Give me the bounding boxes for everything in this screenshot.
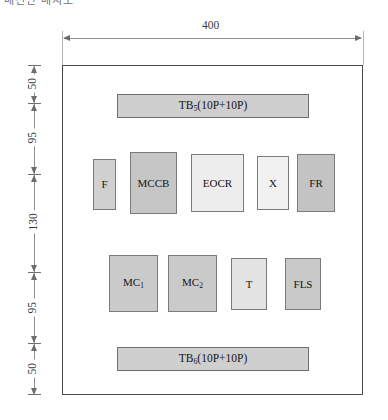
dim-arrow-seg4-top xyxy=(31,344,37,351)
dim-extension-right xyxy=(363,31,364,65)
dim-arrow-seg3-top xyxy=(31,273,37,280)
dim-width-arrow-right xyxy=(355,35,362,41)
dim-vertical-label-95-lower: 95 xyxy=(27,299,39,317)
dim-arrow-seg1-top xyxy=(31,104,37,111)
component-fls-label: FLS xyxy=(294,279,313,290)
component-mccb[interactable]: MCCB xyxy=(130,152,177,214)
component-fls[interactable]: FLS xyxy=(285,258,321,310)
dim-vertical-label-130: 130 xyxy=(28,210,40,233)
dim-vertical-label-50-top: 50 xyxy=(27,75,39,93)
dim-width-label: 400 xyxy=(198,20,223,32)
dim-arrow-seg3-bot xyxy=(31,336,37,343)
component-f-label: F xyxy=(101,179,107,190)
component-mc1-label: MC1 xyxy=(123,277,144,289)
terminal-block-tb5-label: TB5(10P+10P) xyxy=(179,100,248,113)
terminal-block-tb5[interactable]: TB5(10P+10P) xyxy=(117,94,309,118)
dim-width-line xyxy=(64,38,361,39)
component-x-label: X xyxy=(269,178,277,189)
control-panel-enclosure: TB5(10P+10P) F MCCB EOCR X FR MC1 MC2 T … xyxy=(62,65,363,395)
component-x[interactable]: X xyxy=(257,156,289,210)
component-t[interactable]: T xyxy=(231,258,267,310)
component-fr[interactable]: FR xyxy=(297,154,335,212)
component-f[interactable]: F xyxy=(93,159,116,210)
component-mc2-label: MC2 xyxy=(182,277,203,289)
dim-arrow-seg0-top xyxy=(31,66,37,73)
component-mc2[interactable]: MC2 xyxy=(168,255,217,312)
clipped-header-text: 배전반 배치도 xyxy=(4,0,74,7)
dim-width-arrow-left xyxy=(63,35,70,41)
dim-arrow-seg2-bot xyxy=(31,265,37,272)
component-t-label: T xyxy=(246,279,253,290)
dim-arrow-seg2-top xyxy=(31,175,37,182)
terminal-block-tb6-label: TB6(10P+10P) xyxy=(179,353,248,366)
component-mccb-label: MCCB xyxy=(138,178,170,189)
component-mc1[interactable]: MC1 xyxy=(109,255,158,312)
terminal-block-tb6[interactable]: TB6(10P+10P) xyxy=(117,347,309,371)
component-eocr-label: EOCR xyxy=(203,178,232,189)
dim-arrow-seg1-bot xyxy=(31,167,37,174)
dim-vertical-label-95-upper: 95 xyxy=(27,129,39,147)
dim-arrow-seg0-bot xyxy=(31,96,37,103)
dim-arrow-seg4-bot xyxy=(31,388,37,395)
component-fr-label: FR xyxy=(309,178,322,189)
dim-vertical-label-50-bottom: 50 xyxy=(27,360,39,378)
panel-layout-diagram: 배전반 배치도 400 50 95 130 95 50 TB5(10P+10P)… xyxy=(0,0,388,420)
component-eocr[interactable]: EOCR xyxy=(191,154,244,212)
